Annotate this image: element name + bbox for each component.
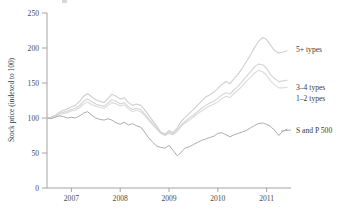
y-tick-label: 100	[28, 114, 40, 123]
y-tick-label: 150	[28, 79, 40, 88]
y-tick-label: 0	[35, 184, 39, 193]
series-label-s-and-p-500: S and P 500	[296, 126, 332, 135]
x-tick-label: 2011	[259, 194, 274, 203]
series-label-1-2-types: 1–2 types	[296, 94, 325, 103]
series-label-5-types: 5+ types	[296, 45, 322, 54]
x-tick-label: 2009	[161, 194, 176, 203]
chart-background	[0, 0, 350, 218]
top-crop-mark	[62, 0, 67, 3]
y-tick-label: 250	[28, 9, 40, 18]
y-tick-label: 50	[31, 149, 39, 158]
line-chart: 050100150200250 20072008200920102011 Sto…	[0, 0, 350, 218]
x-tick-label: 2008	[113, 194, 128, 203]
chart-container: 050100150200250 20072008200920102011 Sto…	[0, 0, 350, 218]
x-tick-label: 2007	[64, 194, 79, 203]
y-tick-label: 200	[28, 44, 40, 53]
series-label-3-4-types: 3–4 types	[296, 83, 325, 92]
x-tick-label: 2010	[210, 194, 225, 203]
y-axis-title: Stock price (indexed to 100)	[7, 57, 16, 142]
